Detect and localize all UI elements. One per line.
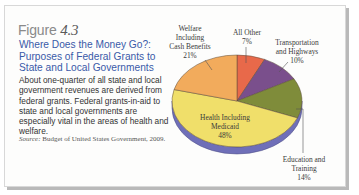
label-health-line1: Health Including <box>200 113 250 122</box>
label-transport: Transportation and Highways 10% <box>275 38 319 65</box>
label-education-value: 14% <box>297 173 311 182</box>
label-transport-line2: and Highways <box>276 47 319 56</box>
label-health-value: 48% <box>218 131 232 140</box>
label-other: All Other 7% <box>233 28 262 46</box>
pie-chart: Welfare Including Cash Benefits 21% All … <box>0 0 359 195</box>
label-health-line2: Medicaid <box>211 122 239 131</box>
label-transport-line1: Transportation <box>275 38 319 47</box>
label-welfare-line3: Cash Benefits <box>169 42 210 51</box>
pie-slices <box>172 55 302 147</box>
label-welfare-line1: Welfare <box>178 24 202 33</box>
label-transport-value: 10% <box>290 56 304 65</box>
label-other-line1: All Other <box>233 28 262 37</box>
label-education: Education and Training 14% <box>283 155 326 182</box>
label-education-line1: Education and <box>283 155 326 164</box>
label-welfare-line2: Including <box>176 33 205 42</box>
label-welfare: Welfare Including Cash Benefits 21% <box>169 24 210 60</box>
label-other-value: 7% <box>242 37 252 46</box>
label-welfare-value: 21% <box>183 51 197 60</box>
label-education-line2: Training <box>291 164 316 173</box>
